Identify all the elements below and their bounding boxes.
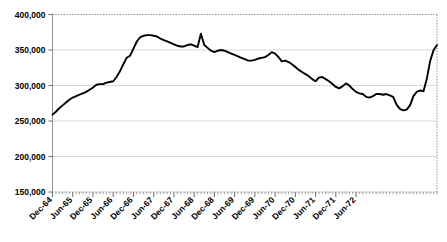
- plot-area-border: [53, 15, 438, 193]
- y-axis-tick-labels: 400,000350,000300,000250,000200,000150,0…: [15, 10, 46, 198]
- chart-container: 400,000350,000300,000250,000200,000150,0…: [0, 0, 447, 242]
- y-axis-label: 250,000: [15, 116, 46, 126]
- gridlines: [53, 50, 438, 157]
- y-axis-label: 150,000: [15, 187, 46, 197]
- data-series: [53, 34, 438, 115]
- y-axis-tick-marks: [49, 15, 53, 193]
- y-axis-label: 200,000: [15, 152, 46, 162]
- x-axis-tick-labels: Dec-64Jun-65Dec-65Jun-66Dec-66Jun-67Dec-…: [27, 195, 358, 222]
- y-axis-label: 400,000: [15, 10, 46, 20]
- y-axis-label: 300,000: [15, 81, 46, 91]
- x-axis-label: Jun-72: [331, 195, 358, 222]
- x-axis-ticks: [53, 192, 438, 197]
- line-chart: 400,000350,000300,000250,000200,000150,0…: [0, 0, 447, 242]
- y-axis-label: 350,000: [15, 45, 46, 55]
- series-line: [53, 34, 438, 115]
